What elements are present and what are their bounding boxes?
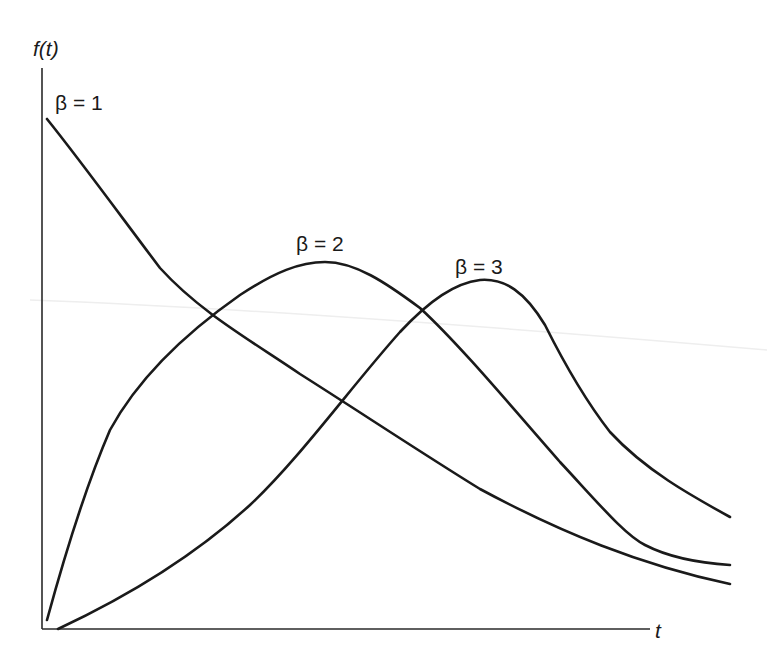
curve-beta-2 bbox=[47, 262, 730, 620]
curve-label-beta-1: β = 1 bbox=[55, 92, 103, 113]
scan-artifact bbox=[30, 300, 767, 350]
x-axis-label: t bbox=[655, 620, 661, 641]
curve-beta-1 bbox=[47, 119, 730, 584]
weibull-density-diagram bbox=[0, 0, 767, 664]
curve-beta-3 bbox=[58, 280, 730, 629]
curve-label-beta-2: β = 2 bbox=[296, 233, 344, 254]
curve-label-beta-3: β = 3 bbox=[455, 256, 503, 277]
y-axis-label: f(t) bbox=[33, 38, 59, 59]
